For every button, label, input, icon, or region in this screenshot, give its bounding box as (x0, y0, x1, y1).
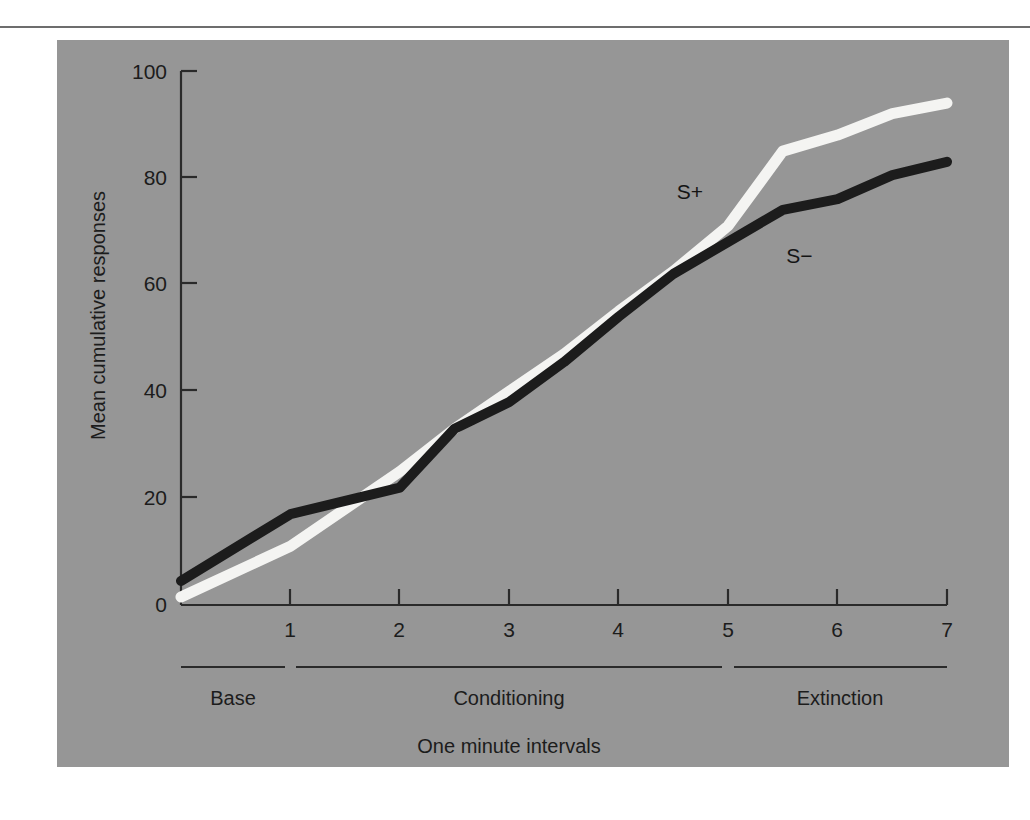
x-axis-title: One minute intervals (417, 735, 600, 757)
y-tick-label-20: 20 (144, 486, 167, 509)
y-tick-label-60: 60 (144, 272, 167, 295)
x-tick-label-6: 6 (831, 618, 843, 641)
x-tick-label-4: 4 (612, 618, 624, 641)
series-annotation-s-minus: S− (786, 244, 812, 267)
figure-page: 100 80 60 40 20 0 Mean cumulative respon… (0, 0, 1030, 820)
y-tick-label-0: 0 (155, 593, 167, 616)
chart-panel: 100 80 60 40 20 0 Mean cumulative respon… (57, 40, 1009, 767)
y-tick-label-100: 100 (132, 60, 167, 83)
x-tick-label-1: 1 (284, 618, 296, 641)
series-line-s-minus (181, 162, 947, 581)
y-axis-ticks (181, 71, 197, 497)
y-axis-title: Mean cumulative responses (87, 191, 109, 440)
phase-label-conditioning: Conditioning (453, 687, 564, 709)
y-tick-label-40: 40 (144, 379, 167, 402)
x-tick-label-3: 3 (503, 618, 515, 641)
x-tick-label-7: 7 (941, 618, 953, 641)
phase-label-extinction: Extinction (797, 687, 884, 709)
phase-label-base: Base (210, 687, 256, 709)
x-tick-label-5: 5 (722, 618, 734, 641)
x-axis-ticks (290, 589, 947, 605)
page-top-rule (0, 26, 1030, 28)
x-tick-label-2: 2 (393, 618, 405, 641)
series-line-s-plus (181, 103, 947, 597)
y-tick-label-80: 80 (144, 166, 167, 189)
series-annotation-s-plus: S+ (677, 180, 703, 203)
line-chart: 100 80 60 40 20 0 Mean cumulative respon… (57, 40, 1009, 767)
